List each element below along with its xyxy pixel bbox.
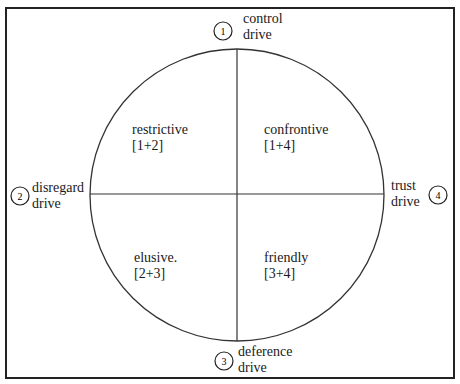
quadrant-elusive: elusive. [2+3] xyxy=(134,250,177,282)
quadrant-combo: [3+4] xyxy=(264,266,308,282)
drive-label-line2: drive xyxy=(243,27,283,43)
drive-label-disregard: disregard drive xyxy=(32,180,84,212)
drive-label-line1: disregard xyxy=(32,180,84,196)
drive-label-control: control drive xyxy=(243,11,283,43)
drive-number-2: 2 xyxy=(18,191,23,202)
drive-label-line1: deference xyxy=(238,344,292,360)
quadrant-name: friendly xyxy=(264,250,308,266)
drive-label-line1: control xyxy=(243,11,283,27)
drive-label-trust: trust drive xyxy=(391,178,420,210)
drive-marker-3: 3 xyxy=(215,352,233,370)
quadrant-combo: [2+3] xyxy=(134,266,177,282)
quadrant-name: confrontive xyxy=(264,122,329,138)
drive-label-line2: drive xyxy=(391,194,420,210)
quadrant-combo: [1+2] xyxy=(132,138,188,154)
drive-label-deference: deference drive xyxy=(238,344,292,376)
quadrant-restrictive: restrictive [1+2] xyxy=(132,122,188,154)
drive-label-line2: drive xyxy=(238,360,292,376)
drive-marker-4: 4 xyxy=(429,186,447,204)
drive-marker-2: 2 xyxy=(11,187,29,205)
drive-label-line2: drive xyxy=(32,196,84,212)
drive-label-line1: trust xyxy=(391,178,420,194)
quadrant-friendly: friendly [3+4] xyxy=(264,250,308,282)
quadrant-name: elusive. xyxy=(134,250,177,266)
quadrant-name: restrictive xyxy=(132,122,188,138)
drive-number-4: 4 xyxy=(436,190,441,201)
quadrant-confrontive: confrontive [1+4] xyxy=(264,122,329,154)
quadrant-combo: [1+4] xyxy=(264,138,329,154)
drive-number-1: 1 xyxy=(221,26,226,37)
drive-number-3: 3 xyxy=(222,356,227,367)
drive-marker-1: 1 xyxy=(214,22,232,40)
